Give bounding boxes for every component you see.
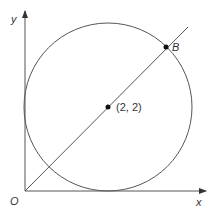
coordinate-diagram: y O x B (2, 2)	[0, 0, 214, 215]
point-b	[164, 45, 169, 50]
center-point	[106, 105, 111, 110]
x-axis-label: x	[195, 196, 202, 208]
origin-label: O	[10, 195, 19, 207]
point-b-label: B	[172, 41, 179, 53]
center-label: (2, 2)	[116, 101, 142, 113]
y-axis-label: y	[10, 13, 18, 25]
